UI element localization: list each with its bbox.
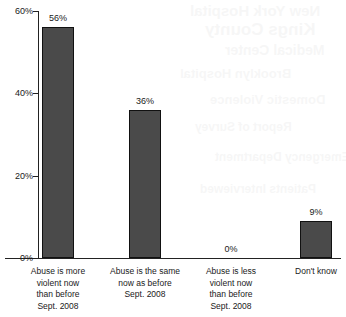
x-axis-line — [5, 258, 341, 259]
category-label-line: Don't know — [278, 266, 346, 278]
category-label-line: violent now — [16, 278, 100, 290]
y-axis-label-60: 60% — [5, 7, 33, 16]
category-label-line: Sept. 2008 — [100, 289, 190, 301]
y-axis-line — [38, 11, 39, 259]
category-label-line: than before — [16, 289, 100, 301]
bar-value-label-4: 9% — [300, 208, 332, 217]
bar-abuse-more-violent[interactable] — [42, 27, 74, 258]
bar-abuse-same[interactable] — [129, 110, 161, 258]
category-label-line: violent now — [190, 278, 272, 290]
category-label-line: Sept. 2008 — [16, 301, 100, 313]
bar-value-label-3: 0% — [215, 245, 247, 254]
category-label-dont-know: Don't know — [278, 266, 346, 278]
category-label-abuse-more-violent: Abuse is more violent now than before Se… — [16, 266, 100, 312]
plot-area: 60% 40% 20% 0% 56% 36% 0% 9% Abuse is mo… — [0, 0, 346, 317]
y-axis-label-0: 0% — [5, 254, 33, 263]
category-label-line: Abuse is more — [16, 266, 100, 278]
bar-value-label-1: 56% — [42, 14, 74, 23]
y-axis-tick-60 — [33, 11, 38, 12]
y-axis-tick-40 — [33, 93, 38, 94]
y-axis-tick-20 — [33, 176, 38, 177]
y-axis-label-20: 20% — [5, 172, 33, 181]
bar-value-label-2: 36% — [129, 97, 161, 106]
category-label-abuse-less-violent: Abuse is less violent now than before Se… — [190, 266, 272, 312]
category-label-abuse-same: Abuse is the same now as before Sept. 20… — [100, 266, 190, 301]
category-label-line: now as before — [100, 278, 190, 290]
category-label-line: Sept. 2008 — [190, 301, 272, 313]
bar-dont-know[interactable] — [300, 221, 332, 258]
category-label-line: than before — [190, 289, 272, 301]
bar-chart: New York Hospital Kings County Medical C… — [0, 0, 346, 317]
y-axis-label-40: 40% — [5, 89, 33, 98]
y-axis-tick-0 — [33, 258, 38, 259]
category-label-line: Abuse is less — [190, 266, 272, 278]
category-label-line: Abuse is the same — [100, 266, 190, 278]
